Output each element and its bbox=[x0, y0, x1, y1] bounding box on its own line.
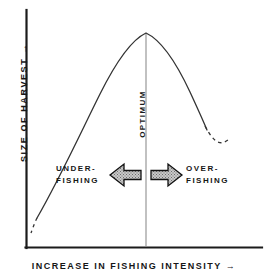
optimum-label: OPTIMUM bbox=[139, 79, 147, 149]
under-fishing-label-line1: UNDER- bbox=[56, 163, 99, 175]
plot-area bbox=[0, 0, 268, 275]
over-fishing-label-line2: FISHING bbox=[186, 175, 229, 187]
over-fishing-label-line1: OVER- bbox=[186, 163, 229, 175]
over-fishing-arrow-icon bbox=[151, 164, 182, 186]
yield-curve-right-dashed-tail bbox=[205, 126, 228, 143]
over-fishing-label: OVER- FISHING bbox=[186, 163, 229, 186]
under-fishing-label: UNDER- FISHING bbox=[56, 163, 99, 186]
yield-curve-figure: SIZE OF HARVEST → INCREASE IN FISHING IN… bbox=[0, 0, 268, 275]
under-fishing-label-line2: FISHING bbox=[56, 175, 99, 187]
yield-curve-solid bbox=[37, 33, 207, 218]
x-axis-label: INCREASE IN FISHING INTENSITY → bbox=[0, 262, 268, 271]
y-axis-label: SIZE OF HARVEST → bbox=[20, 23, 29, 183]
under-fishing-arrow-icon bbox=[110, 164, 141, 186]
yield-curve-left-dashed-tail bbox=[31, 218, 37, 233]
